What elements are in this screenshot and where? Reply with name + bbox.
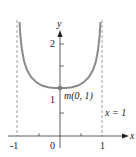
asymptote-label: x = 1 — [105, 108, 126, 118]
y-axis-arrow-icon — [58, 30, 63, 37]
point-label: m(0, 1) — [64, 91, 93, 101]
x-tick-label-neg1: -1 — [10, 141, 18, 151]
minimum-point — [58, 86, 62, 90]
y-tick-label-1: 1 — [50, 95, 55, 105]
x-tick-label-1: 1 — [100, 141, 105, 151]
x-tick-label-0: 0 — [50, 141, 55, 151]
x-axis-arrow-icon — [122, 134, 129, 139]
x-axis-label: x — [130, 131, 134, 141]
graph-canvas — [0, 0, 136, 157]
y-tick-label-2: 2 — [50, 39, 55, 49]
y-axis-label: y — [57, 19, 61, 29]
